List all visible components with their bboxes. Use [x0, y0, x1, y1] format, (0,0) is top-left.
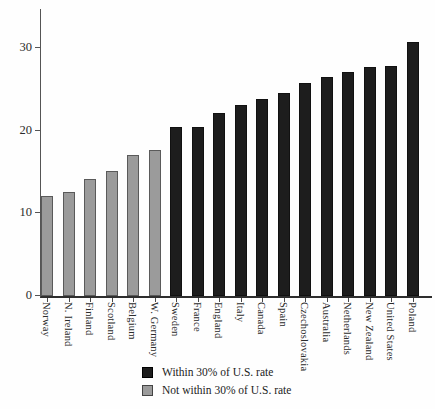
y-label-20: 20 — [7, 124, 32, 136]
bar-scotland — [106, 171, 118, 296]
y-tick-20 — [35, 130, 41, 131]
bar-australia — [321, 77, 333, 296]
x-label-france: France — [189, 302, 205, 332]
x-label-belgium: Belgium — [124, 302, 140, 340]
legend-swatch-black — [142, 367, 153, 378]
x-label-netherlands: Netherlands — [339, 302, 355, 355]
x-label-new-zealand: New Zealand — [361, 302, 377, 360]
x-label-united-states: United States — [382, 302, 398, 361]
x-label-australia: Australia — [318, 302, 334, 342]
x-label-sweden: Sweden — [167, 302, 183, 336]
bar-poland — [407, 42, 419, 296]
x-label-czechoslovakia: Czechoslovakia — [296, 302, 312, 371]
legend-item-not-within: Not within 30% of U.S. rate — [142, 385, 291, 396]
bar-france — [192, 127, 204, 296]
y-tick-10 — [35, 212, 41, 213]
x-label-england: England — [210, 302, 226, 338]
y-label-10: 10 — [7, 206, 32, 218]
bar-italy — [235, 105, 247, 296]
x-label-norway: Norway — [38, 302, 54, 337]
y-label-30: 30 — [7, 41, 32, 53]
legend-label-within: Within 30% of U.S. rate — [162, 367, 273, 378]
plot-area: 0102030 — [40, 9, 432, 298]
x-label-n-ireland: N. Ireland — [60, 302, 76, 347]
legend-item-within: Within 30% of U.S. rate — [142, 367, 291, 378]
x-label-canada: Canada — [253, 302, 269, 335]
y-tick-0 — [35, 295, 41, 296]
bar-norway — [41, 196, 53, 296]
x-axis-labels: NorwayN. IrelandFinlandScotlandBelgiumW.… — [40, 302, 432, 372]
bar-czechoslovakia — [299, 83, 311, 296]
bar-united-states — [385, 66, 397, 296]
bar-canada — [256, 99, 268, 296]
bar-new-zealand — [364, 67, 376, 296]
bar-w-germany — [149, 150, 161, 296]
x-label-scotland: Scotland — [103, 302, 119, 340]
bar-finland — [84, 179, 96, 296]
bar-belgium — [127, 155, 139, 296]
x-label-poland: Poland — [404, 302, 420, 332]
bar-chart-figure: 0102030 NorwayN. IrelandFinlandScotlandB… — [0, 0, 435, 409]
x-label-finland: Finland — [81, 302, 97, 336]
bar-netherlands — [342, 72, 354, 296]
bar-england — [213, 113, 225, 296]
x-label-w-germany: W. Germany — [146, 302, 162, 357]
x-label-italy: Italy — [232, 302, 248, 322]
legend-swatch-gray — [142, 385, 153, 396]
y-label-0: 0 — [7, 289, 32, 301]
legend-label-not-within: Not within 30% of U.S. rate — [162, 385, 291, 396]
bar-n-ireland — [63, 192, 75, 296]
bar-spain — [278, 93, 290, 296]
y-tick-30 — [35, 47, 41, 48]
x-label-spain: Spain — [275, 302, 291, 327]
bar-sweden — [170, 127, 182, 296]
legend: Within 30% of U.S. rate Not within 30% o… — [142, 367, 291, 403]
